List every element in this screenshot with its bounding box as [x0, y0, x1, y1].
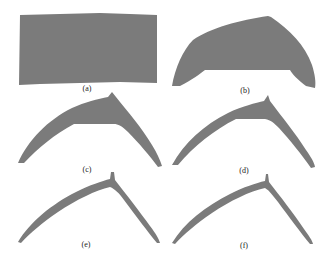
- topology-figure: (a) (b) (c) (d) (e) (f): [0, 0, 334, 263]
- panel-f-label: (f): [240, 241, 248, 250]
- panel-d-shape: [172, 95, 315, 168]
- panel-c-label: (c): [83, 165, 92, 174]
- panel-e-label: (e): [82, 240, 91, 249]
- panel-e-shape: [18, 172, 160, 243]
- panel-a-label: (a): [83, 84, 92, 93]
- panel-b-shape: [172, 16, 315, 88]
- panel-f-shape: [172, 174, 313, 244]
- panel-a-shape: [19, 13, 157, 85]
- figure-canvas: [0, 0, 334, 263]
- panel-b-label: (b): [240, 86, 249, 95]
- panel-c-shape: [18, 92, 162, 167]
- panel-d-label: (d): [239, 166, 248, 175]
